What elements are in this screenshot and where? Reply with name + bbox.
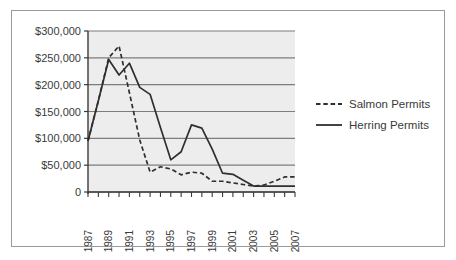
y-tick-label: $100,000: [35, 132, 81, 144]
legend-label-salmon-permits[interactable]: Salmon Permits: [349, 98, 430, 110]
x-tick-label: 1989: [103, 230, 114, 253]
x-tick-label: 2003: [248, 230, 259, 253]
permits-line-chart: 0$50,000$100,000$150,000$200,000$250,000…: [0, 0, 456, 260]
y-tick-label: $150,000: [35, 106, 81, 118]
x-tick-label: 2005: [269, 230, 280, 253]
x-tick-label: 1995: [165, 230, 176, 253]
x-tick-label: 2007: [290, 230, 301, 253]
x-tick-label: 1993: [145, 230, 156, 253]
x-tick-label: 1999: [207, 230, 218, 253]
x-tick-label: 1991: [124, 230, 135, 253]
y-axis-tick-labels: 0$50,000$100,000$150,000$200,000$250,000…: [35, 25, 81, 198]
x-axis: [88, 192, 295, 197]
x-axis-tick-labels: 1987198919911993199519971999200120032005…: [83, 230, 301, 253]
chart-legend[interactable]: Salmon PermitsHerring Permits: [316, 98, 430, 131]
y-tick-label: $250,000: [35, 52, 81, 64]
figure-container: 0$50,000$100,000$150,000$200,000$250,000…: [0, 0, 456, 260]
x-tick-label: 1987: [83, 230, 94, 253]
x-tick-label: 1997: [186, 230, 197, 253]
y-tick-label: $300,000: [35, 25, 81, 37]
y-axis: [84, 31, 88, 194]
y-tick-label: 0: [75, 186, 81, 198]
legend-label-herring-permits[interactable]: Herring Permits: [349, 119, 429, 131]
x-tick-label: 2001: [227, 230, 238, 253]
y-tick-label: $200,000: [35, 79, 81, 91]
y-tick-label: $50,000: [41, 159, 81, 171]
